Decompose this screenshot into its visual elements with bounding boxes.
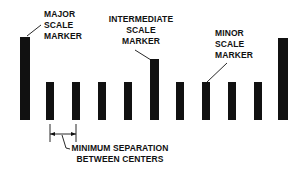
- label-line: SCALE: [215, 39, 253, 50]
- minor-scale-marker-label: MINOR SCALE MARKER: [215, 28, 253, 61]
- label-line: MARKER: [44, 31, 82, 42]
- intermediate-scale-marker-label: INTERMEDIATE SCALE MARKER: [106, 14, 176, 47]
- major-scale-marker-label: MAJOR SCALE MARKER: [44, 9, 82, 42]
- minimum-separation-label: MINIMUM SEPARATION BETWEEN CENTERS: [70, 143, 170, 165]
- label-line: MINIMUM SEPARATION: [70, 143, 170, 154]
- label-line: MAJOR: [44, 9, 82, 20]
- label-line: SCALE: [106, 25, 176, 36]
- label-line: MARKER: [106, 36, 176, 47]
- label-line: MINOR: [215, 28, 253, 39]
- label-line: BETWEEN CENTERS: [70, 154, 170, 165]
- scale-marker-diagram: MAJOR SCALE MARKER INTERMEDIATE SCALE MA…: [0, 0, 304, 176]
- label-line: INTERMEDIATE: [106, 14, 176, 25]
- label-line: SCALE: [44, 20, 82, 31]
- label-line: MARKER: [215, 50, 253, 61]
